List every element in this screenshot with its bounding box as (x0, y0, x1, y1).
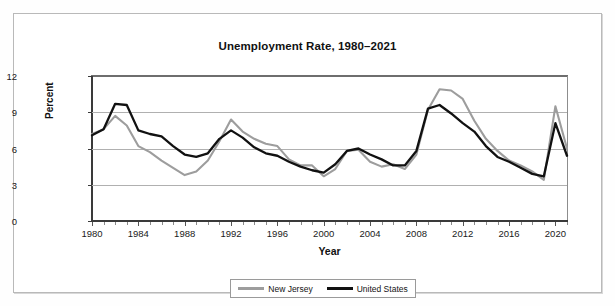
x-tick-mark-2015 (498, 222, 499, 225)
plot-area (92, 76, 567, 221)
x-tick-mark-2002 (347, 222, 348, 225)
x-tick-mark-1983 (127, 222, 128, 225)
x-tick-label-1988: 1988 (174, 228, 195, 239)
chart-title: Unemployment Rate, 1980–2021 (14, 40, 601, 52)
y-tick-mark-6 (88, 149, 92, 150)
x-tick-mark-1993 (243, 222, 244, 225)
chart-legend: New Jersey United States (230, 279, 416, 298)
x-tick-mark-2012 (463, 222, 464, 226)
x-tick-mark-2018 (532, 222, 533, 225)
x-tick-mark-2021 (567, 222, 568, 225)
x-tick-mark-2007 (405, 222, 406, 225)
x-tick-mark-2013 (474, 222, 475, 225)
x-tick-mark-1984 (138, 222, 139, 226)
x-tick-mark-2004 (370, 222, 371, 226)
legend-swatch-new-jersey (238, 287, 264, 290)
x-axis-ticks: 1980198419881992199620002004200820122016… (92, 222, 567, 246)
x-tick-mark-1986 (162, 222, 163, 225)
x-tick-label-2004: 2004 (359, 228, 380, 239)
y-tick-mark-12 (88, 76, 92, 77)
x-tick-mark-2020 (555, 222, 556, 226)
x-tick-mark-2001 (335, 222, 336, 225)
x-tick-mark-1980 (92, 222, 93, 226)
x-tick-label-1984: 1984 (128, 228, 149, 239)
y-tick-mark-9 (88, 112, 92, 113)
x-tick-mark-1998 (301, 222, 302, 225)
x-tick-mark-2000 (324, 222, 325, 226)
x-tick-mark-1990 (208, 222, 209, 225)
x-tick-mark-1991 (219, 222, 220, 225)
x-tick-label-1980: 1980 (81, 228, 102, 239)
y-tick-label-12: 12 (0, 71, 17, 82)
legend-item-new-jersey: New Jersey (238, 284, 312, 294)
x-tick-mark-1992 (231, 222, 232, 226)
chart-frame: Unemployment Rate, 1980–2021 Percent 036… (13, 13, 602, 293)
y-axis-title: Percent (44, 82, 55, 119)
x-tick-mark-2019 (544, 222, 545, 225)
legend-label-new-jersey: New Jersey (268, 284, 312, 294)
x-tick-mark-1994 (254, 222, 255, 225)
x-tick-label-2012: 2012 (452, 228, 473, 239)
x-axis-title: Year (92, 245, 567, 257)
x-tick-mark-2017 (521, 222, 522, 225)
y-tick-label-9: 9 (0, 107, 17, 118)
x-tick-mark-1985 (150, 222, 151, 225)
x-tick-mark-2014 (486, 222, 487, 225)
x-tick-mark-2016 (509, 222, 510, 226)
x-tick-label-2008: 2008 (406, 228, 427, 239)
x-tick-label-1996: 1996 (267, 228, 288, 239)
x-tick-mark-1988 (185, 222, 186, 226)
x-tick-mark-1999 (312, 222, 313, 225)
y-tick-mark-3 (88, 185, 92, 186)
x-tick-mark-2008 (416, 222, 417, 226)
x-tick-mark-1997 (289, 222, 290, 225)
legend-label-united-states: United States (357, 284, 408, 294)
x-tick-mark-1982 (115, 222, 116, 225)
x-tick-mark-2005 (382, 222, 383, 225)
legend-item-united-states: United States (327, 284, 408, 294)
chart-page: Unemployment Rate, 1980–2021 Percent 036… (0, 0, 615, 306)
x-tick-label-1992: 1992 (220, 228, 241, 239)
x-tick-mark-1996 (277, 222, 278, 226)
y-tick-label-0: 0 (0, 216, 17, 227)
series-line-new-jersey (92, 89, 567, 180)
series-line-united-states (92, 104, 567, 177)
x-tick-mark-2003 (359, 222, 360, 225)
y-tick-label-3: 3 (0, 179, 17, 190)
x-tick-mark-2009 (428, 222, 429, 225)
x-tick-label-2016: 2016 (499, 228, 520, 239)
x-tick-mark-1987 (173, 222, 174, 225)
x-tick-label-2020: 2020 (545, 228, 566, 239)
x-tick-mark-2006 (393, 222, 394, 225)
x-tick-mark-2010 (440, 222, 441, 225)
y-tick-label-6: 6 (0, 143, 17, 154)
x-tick-mark-1989 (196, 222, 197, 225)
x-tick-mark-1995 (266, 222, 267, 225)
x-tick-mark-2011 (451, 222, 452, 225)
series-lines (92, 76, 567, 221)
x-tick-label-2000: 2000 (313, 228, 334, 239)
legend-swatch-united-states (327, 287, 353, 290)
x-tick-mark-1981 (104, 222, 105, 225)
